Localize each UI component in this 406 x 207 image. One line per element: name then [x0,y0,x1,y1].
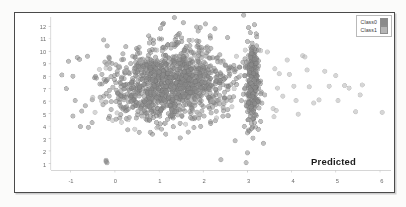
scatter-plot-figure: Class0 Class1 Predicted 123456789101112 … [0,0,406,207]
x-tick-6: 6 [377,178,387,184]
y-tick-4: 4 [36,124,46,130]
y-tick-7: 7 [36,87,46,93]
y-tick-9: 9 [36,61,46,67]
predicted-annotation: Predicted [311,156,356,167]
y-tick-6: 6 [36,99,46,105]
y-tick-1: 1 [36,162,46,168]
x-tick-1: 1 [155,178,165,184]
y-tick-12: 12 [36,24,46,30]
legend-item-class1: Class1 [361,26,388,34]
x-tick-3: 3 [244,178,254,184]
y-tick-2: 2 [36,149,46,155]
x-tick-4: 4 [288,178,298,184]
legend-label-class0: Class0 [361,18,377,26]
x-tick-5: 5 [332,178,342,184]
plot-frame: Class0 Class1 Predicted 123456789101112 … [14,12,395,193]
x-tick-0: 0 [110,178,120,184]
legend-label-class1: Class1 [361,26,377,34]
y-tick-3: 3 [36,137,46,143]
legend-swatch-class1 [380,26,388,34]
y-tick-11: 11 [36,36,46,42]
y-tick-5: 5 [36,112,46,118]
legend-item-class0: Class0 [361,18,388,26]
x-tick--1: -1 [66,178,76,184]
x-tick-2: 2 [199,178,209,184]
legend-swatch-class0 [380,18,388,26]
y-tick-8: 8 [36,74,46,80]
legend: Class0 Class1 [356,15,392,37]
y-tick-10: 10 [36,49,46,55]
